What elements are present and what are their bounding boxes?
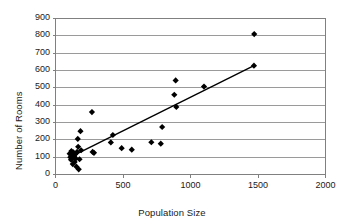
x-tick-label: 2000 <box>306 180 344 190</box>
y-tick-label: 600 <box>20 64 50 74</box>
x-tick-label: 1500 <box>238 180 278 190</box>
data-point <box>171 92 177 98</box>
x-tick-label: 0 <box>36 180 76 190</box>
data-point <box>158 141 164 147</box>
x-tick-label: 500 <box>103 180 143 190</box>
data-point <box>75 136 81 142</box>
y-tick-label: 800 <box>20 29 50 39</box>
data-point <box>173 77 179 83</box>
y-tick-label: 500 <box>20 81 50 91</box>
x-tick-label: 1000 <box>171 180 211 190</box>
data-point <box>77 128 83 134</box>
x-axis-title: Population Size <box>0 207 344 218</box>
data-point <box>129 147 135 153</box>
scatter-chart: 0100200300400500600700800900 05001000150… <box>0 0 344 221</box>
y-axis-title: Number of Rooms <box>13 91 24 170</box>
data-points <box>67 31 258 172</box>
y-tick-label: 200 <box>20 133 50 143</box>
data-point <box>119 145 125 151</box>
data-point <box>159 124 165 130</box>
y-tick-label: 100 <box>20 151 50 161</box>
gridlines <box>56 19 326 158</box>
data-point <box>89 109 95 115</box>
y-tick-label: 700 <box>20 47 50 57</box>
y-tick-label: 400 <box>20 99 50 109</box>
y-tick-label: 900 <box>20 12 50 22</box>
y-tick-label: 0 <box>20 168 50 178</box>
y-tick-label: 300 <box>20 116 50 126</box>
data-point <box>251 63 257 69</box>
